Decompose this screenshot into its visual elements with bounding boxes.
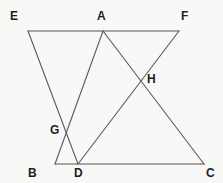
vertex-label-C: C — [206, 167, 215, 179]
diagram-canvas — [0, 0, 223, 183]
vertex-label-E: E — [10, 10, 18, 22]
vertex-label-F: F — [181, 10, 188, 22]
segment-FD — [78, 31, 179, 164]
vertex-label-B: B — [28, 167, 37, 179]
vertex-label-D: D — [74, 167, 83, 179]
segment-AC — [103, 31, 204, 164]
vertex-label-A: A — [97, 10, 106, 22]
vertex-label-G: G — [50, 124, 59, 136]
vertex-label-H: H — [147, 73, 156, 85]
geometry-diagram: E A F G H B D C — [0, 0, 223, 183]
segment-BA — [55, 31, 103, 164]
segment-ED — [28, 31, 78, 164]
